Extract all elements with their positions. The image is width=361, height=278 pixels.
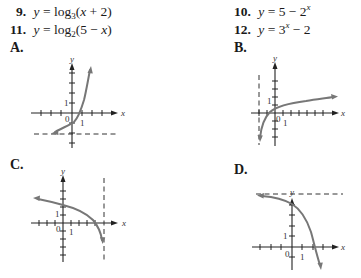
svg-text:y: y — [69, 54, 74, 64]
svg-text:x: x — [120, 108, 125, 118]
svg-text:1: 1 — [69, 227, 74, 237]
graph-a: y x 1 0 1 — [31, 54, 125, 148]
svg-text:1: 1 — [267, 96, 272, 106]
svg-text:0: 0 — [56, 224, 61, 234]
svg-text:1: 1 — [55, 209, 60, 219]
graphs-canvas: y x 1 0 1 y x 1 0 1 — [0, 0, 361, 278]
svg-text:1: 1 — [80, 118, 85, 128]
svg-text:x: x — [121, 218, 126, 228]
svg-text:y: y — [272, 53, 277, 63]
svg-text:y: y — [289, 187, 294, 197]
graph-b: y x 1 0 1 — [251, 53, 345, 146]
svg-text:0: 0 — [276, 114, 281, 124]
svg-text:0: 0 — [285, 249, 290, 259]
svg-text:1: 1 — [64, 98, 69, 108]
svg-text:0: 0 — [65, 114, 70, 124]
svg-text:1: 1 — [283, 231, 288, 241]
svg-text:x: x — [340, 242, 345, 252]
svg-text:1: 1 — [283, 118, 288, 128]
svg-text:x: x — [340, 108, 345, 118]
graph-c: y x 1 0 1 — [31, 166, 126, 262]
graph-d: y x 1 0 1 — [252, 187, 345, 270]
svg-text:y: y — [60, 166, 65, 176]
svg-text:1: 1 — [300, 252, 305, 262]
